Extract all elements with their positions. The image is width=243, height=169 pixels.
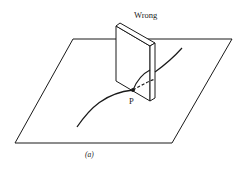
point-p-marker (131, 88, 135, 92)
caption: (a) (85, 150, 94, 159)
diagram-canvas: Wrong P (a) (0, 0, 243, 169)
curve-front (77, 90, 133, 127)
curve-back (155, 48, 182, 72)
title-label: Wrong (134, 10, 158, 20)
vertical-slab (116, 23, 155, 101)
point-label: P (129, 96, 134, 106)
